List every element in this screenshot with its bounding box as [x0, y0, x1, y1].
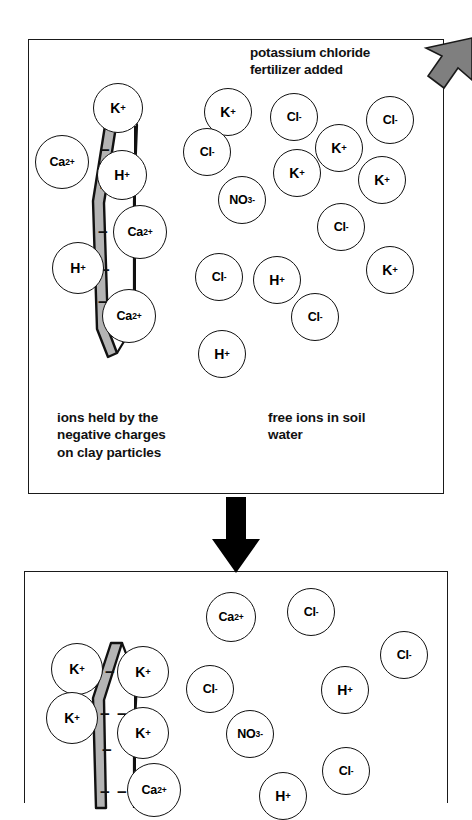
ion-clminus: Cl- [366, 96, 414, 144]
ion-kplus: K+ [273, 149, 321, 197]
ion-kplus: K+ [358, 156, 406, 204]
free-ions-caption-line2: water [268, 426, 418, 443]
ion-clminus: Cl- [270, 93, 318, 141]
bound-ions-caption-line1: ions held by the [57, 409, 207, 426]
ion-hplus: H+ [198, 330, 246, 378]
free-ions-caption-line1: free ions in soil [268, 409, 418, 426]
ion-clminus: Cl- [291, 293, 339, 341]
bound-ions-caption-line3: on clay particles [57, 444, 207, 461]
ion-hplus: H+ [52, 242, 104, 294]
free-ions-caption: free ions in soil water [268, 409, 418, 444]
negative-charge-mark: − [102, 742, 112, 759]
ion-no3minus: NO3- [226, 710, 274, 758]
ion-hplus: H+ [253, 256, 301, 304]
ion-hplus: H+ [259, 772, 307, 820]
negative-charge-mark: − [98, 224, 108, 241]
ion-ca2plus: Ca2+ [113, 205, 167, 259]
negative-charge-mark: − [100, 784, 110, 801]
ion-no3minus: NO3- [218, 176, 266, 224]
fertilizer-arrow-icon [384, 36, 472, 98]
ion-clminus: Cl- [287, 588, 335, 636]
ion-kplus: K+ [366, 246, 414, 294]
ion-clminus: Cl- [322, 747, 370, 795]
ion-kplus: K+ [93, 83, 143, 133]
bound-ions-caption: ions held by the negative charges on cla… [57, 409, 207, 461]
ion-kplus: K+ [117, 707, 169, 759]
ion-hplus: H+ [321, 666, 369, 714]
ion-kplus: K+ [315, 124, 363, 172]
ion-kplus: K+ [46, 692, 98, 744]
ion-ca2plus: Ca2+ [102, 289, 156, 343]
ion-kplus: K+ [117, 646, 169, 698]
negative-charge-mark: − [105, 664, 115, 681]
ion-clminus: Cl- [380, 631, 428, 679]
ion-ca2plus: Ca2+ [127, 763, 181, 817]
ion-ca2plus: Ca2+ [206, 592, 256, 642]
bound-ions-caption-line2: negative charges [57, 426, 207, 443]
ion-clminus: Cl- [317, 203, 365, 251]
ion-clminus: Cl- [183, 128, 231, 176]
ion-clminus: Cl- [186, 665, 234, 713]
ion-clminus: Cl- [195, 253, 243, 301]
ion-kplus: K+ [51, 643, 103, 695]
ion-hplus: H+ [97, 150, 147, 200]
negative-charge-mark: − [100, 706, 110, 723]
transition-arrow-icon [196, 497, 276, 573]
negative-charge-mark: − [117, 784, 127, 801]
ion-ca2plus: Ca2+ [35, 135, 89, 189]
